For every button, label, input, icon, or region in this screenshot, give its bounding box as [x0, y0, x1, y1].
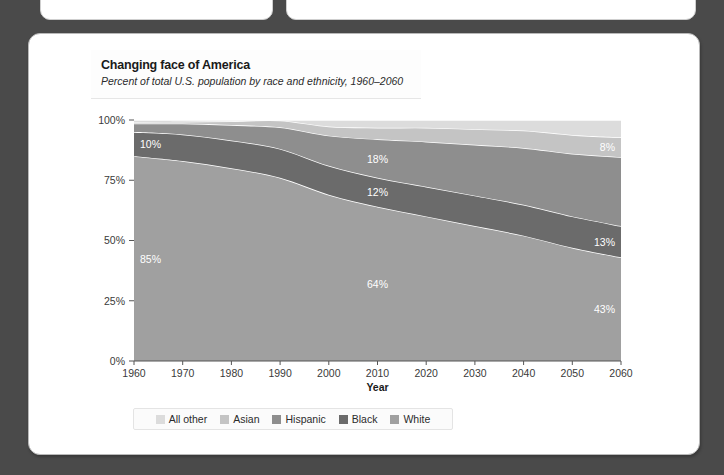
x-axis-tick-label: 2020 — [415, 367, 439, 379]
legend-swatch-icon — [339, 415, 348, 424]
data-label-black: 13% — [594, 236, 615, 248]
y-axis-tick-label: 75% — [104, 174, 125, 186]
x-axis-tick-label: 2040 — [512, 367, 536, 379]
legend-label: Asian — [233, 413, 259, 425]
chart-title-block: Changing face of America Percent of tota… — [91, 50, 421, 99]
y-axis-tick-label: 50% — [104, 234, 125, 246]
legend-item-all-other[interactable]: All other — [156, 413, 208, 425]
x-axis-tick-label: 1960 — [122, 367, 146, 379]
y-axis-tick-label: 100% — [98, 114, 125, 126]
partial-panel-left — [40, 0, 273, 20]
legend-label: Hispanic — [285, 413, 325, 425]
x-axis-tick-label: 2030 — [463, 367, 487, 379]
x-axis-tick-label: 2060 — [609, 367, 633, 379]
chart-card: 0%25%50%75%100%1960197019801990200020102… — [28, 33, 700, 455]
chart-subtitle: Percent of total U.S. population by race… — [101, 75, 411, 88]
legend-swatch-icon — [156, 415, 165, 424]
data-label-hispanic: 18% — [367, 153, 388, 165]
legend-swatch-icon — [272, 415, 281, 424]
data-label-black: 12% — [367, 186, 388, 198]
x-axis-tick-label: 2050 — [561, 367, 585, 379]
partial-panel-right — [286, 0, 696, 20]
data-label-white: 85% — [140, 253, 161, 265]
legend-item-asian[interactable]: Asian — [220, 413, 259, 425]
data-label-white: 64% — [367, 278, 388, 290]
legend-swatch-icon — [390, 415, 399, 424]
legend-swatch-icon — [220, 415, 229, 424]
x-axis-title: Year — [366, 381, 388, 393]
legend-item-hispanic[interactable]: Hispanic — [272, 413, 325, 425]
data-label-black: 10% — [140, 138, 161, 150]
legend-label: White — [403, 413, 430, 425]
y-axis-tick-label: 0% — [110, 355, 125, 367]
x-axis-tick-label: 2000 — [317, 367, 341, 379]
data-label-asian: 8% — [600, 141, 615, 153]
x-axis-tick-label: 2010 — [366, 367, 390, 379]
legend-label: All other — [169, 413, 208, 425]
x-axis-tick-label: 1980 — [220, 367, 244, 379]
y-axis-tick-label: 25% — [104, 295, 125, 307]
data-label-white: 43% — [594, 303, 615, 315]
legend-item-white[interactable]: White — [390, 413, 430, 425]
x-axis-tick-label: 1990 — [268, 367, 292, 379]
legend-item-black[interactable]: Black — [339, 413, 378, 425]
page-title: Changing face of America — [101, 58, 411, 72]
x-axis-tick-label: 1970 — [171, 367, 195, 379]
legend-label: Black — [352, 413, 378, 425]
chart-legend: All otherAsianHispanicBlackWhite — [133, 408, 453, 430]
